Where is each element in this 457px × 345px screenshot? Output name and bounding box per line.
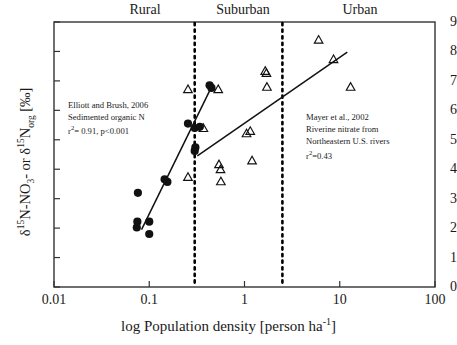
chart-figure: Rural Suburban Urban 0 1 2 3 4 5 6 7 8 9… — [0, 0, 457, 345]
data-markers — [133, 36, 355, 239]
plot-canvas — [0, 0, 457, 345]
regression-lines — [142, 52, 348, 230]
axes-frame — [54, 22, 435, 287]
zone-divider-lines — [195, 23, 283, 286]
